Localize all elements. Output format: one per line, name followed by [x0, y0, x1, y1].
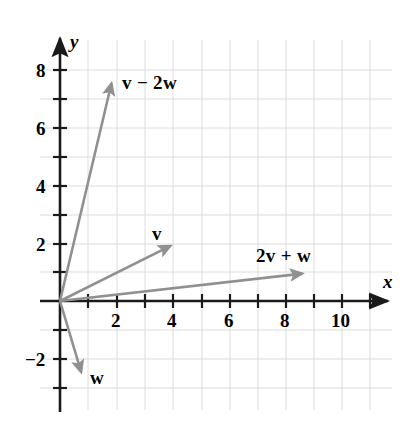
vector-label-v-minus-2w-coefficient: 2 — [153, 72, 163, 93]
vector-label-v-minus-2w-w: w — [163, 72, 177, 93]
vector-label-2v-plus-w: 2v + w — [256, 246, 311, 265]
vector-v — [60, 246, 171, 301]
y-tick-label-4: 4 — [36, 177, 46, 196]
vector-label-2v-plus-w-w: w — [297, 245, 311, 266]
x-tick-label-10: 10 — [331, 311, 350, 330]
y-tick-label-2: 2 — [36, 235, 46, 254]
vector-label-2v-plus-w-coefficient: 2 — [256, 245, 266, 266]
y-axis-label: y — [70, 32, 78, 51]
vector-arrows — [60, 83, 302, 372]
y-tick-label-neg2: −2 — [25, 350, 45, 369]
vector-w — [60, 301, 81, 372]
vector-label-v-minus-2w-v: v — [122, 72, 132, 93]
x-axis-label: x — [383, 272, 393, 291]
x-tick-label-6: 6 — [224, 311, 234, 330]
plot-canvas — [0, 0, 414, 421]
x-tick-label-8: 8 — [280, 311, 290, 330]
vector-label-v: v — [152, 224, 162, 243]
grid-lines — [40, 40, 392, 410]
vector-label-2v-plus-w-plus: + — [281, 245, 292, 266]
x-tick-label-4: 4 — [167, 311, 177, 330]
y-tick-label-8: 8 — [36, 61, 46, 80]
vector-label-v-minus-2w-minus: − — [137, 72, 148, 93]
vector-2v-plus-w — [60, 274, 302, 301]
vector-label-v-minus-2w: v − 2w — [122, 73, 177, 92]
vector-diagram-figure: y x 2 4 6 8 10 8 6 4 2 −2 v − 2w v 2v + … — [0, 0, 414, 421]
x-tick-label-2: 2 — [111, 311, 121, 330]
y-tick-label-6: 6 — [36, 119, 46, 138]
vector-label-2v-plus-w-v: v — [266, 245, 276, 266]
vector-label-w: w — [90, 368, 104, 387]
vector-v-minus-2w — [60, 83, 112, 301]
axis-lines — [40, 38, 388, 412]
